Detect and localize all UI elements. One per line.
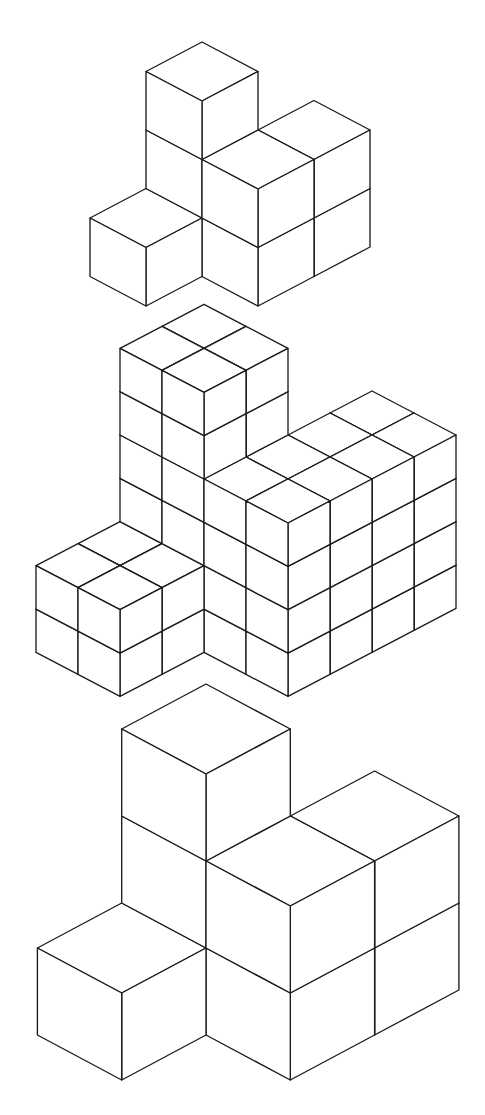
figure-middle [36,304,456,696]
figure-top [90,42,370,306]
cube-diagram-canvas [0,0,485,1115]
figure-bottom [37,684,459,1080]
